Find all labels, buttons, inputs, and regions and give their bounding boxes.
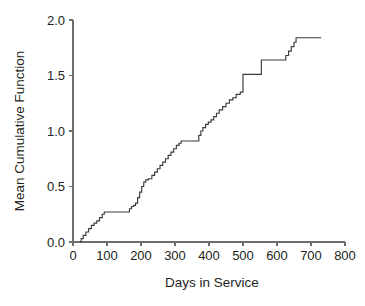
x-axis-title: Days in Service xyxy=(165,275,259,290)
mean-cumulative-function-chart: 0.00.51.01.52.00100200300400500600700800… xyxy=(0,0,365,306)
x-tick-label-1: 100 xyxy=(96,248,118,263)
y-tick-label-2: 1.0 xyxy=(47,124,65,139)
x-tick-label-7: 700 xyxy=(300,248,322,263)
y-tick-label-3: 1.5 xyxy=(47,68,65,83)
series-line-0 xyxy=(80,38,321,242)
x-tick-label-4: 400 xyxy=(198,248,220,263)
x-tick-label-8: 800 xyxy=(334,248,356,263)
y-tick-label-1: 0.5 xyxy=(47,179,65,194)
y-tick-label-0: 0.0 xyxy=(47,235,65,250)
x-tick-label-3: 300 xyxy=(164,248,186,263)
y-tick-label-4: 2.0 xyxy=(47,13,65,28)
x-tick-label-6: 600 xyxy=(266,248,288,263)
chart-canvas: 0.00.51.01.52.00100200300400500600700800… xyxy=(0,0,365,306)
x-tick-label-5: 500 xyxy=(232,248,254,263)
y-axis-title: Mean Cumulative Function xyxy=(12,51,27,212)
x-tick-label-0: 0 xyxy=(69,248,76,263)
x-tick-label-2: 200 xyxy=(130,248,152,263)
